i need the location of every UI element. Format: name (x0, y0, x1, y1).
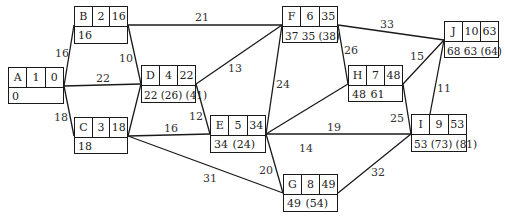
node-j-duration: 10 (463, 22, 481, 41)
node-j-times: 68 63 (64) (445, 42, 498, 59)
edge-label-a-b: 16 (55, 47, 69, 60)
edge-label-d-f: 13 (228, 62, 242, 75)
edge-label-e-g: 20 (259, 164, 273, 177)
edge-label-b-d: 10 (119, 52, 133, 65)
node-d: D422 22 (26) (41) (141, 65, 196, 103)
node-h: H748 48 61 (348, 65, 403, 102)
node-b-es: 16 (110, 7, 127, 26)
node-j-es: 63 (481, 22, 498, 41)
edge-g-i (338, 134, 411, 193)
node-d-name: D (142, 66, 160, 85)
edge-label-f-j: 33 (380, 18, 394, 31)
edge-label-a-d: 22 (96, 72, 110, 85)
edge-label-e-i: 19 (327, 121, 341, 134)
edge-c-d (128, 84, 141, 136)
node-c-es: 18 (110, 118, 127, 137)
node-a: A10 0 (8, 67, 64, 104)
edge-label-e-h: 14 (299, 142, 313, 155)
node-f: F635 37 35 (38) (282, 6, 338, 43)
node-b-name: B (75, 7, 93, 26)
node-f-times: 37 35 (38) (283, 27, 337, 44)
node-j-name: J (445, 22, 463, 41)
node-e: E534 34 (24) (210, 115, 266, 153)
node-g-es: 49 (320, 175, 337, 194)
node-a-duration: 1 (27, 68, 45, 87)
node-a-name: A (9, 68, 27, 87)
node-c-times: 18 (75, 138, 127, 155)
node-e-name: E (211, 116, 229, 135)
node-j: J1063 68 63 (64) (444, 21, 499, 58)
edge-label-d-e: 12 (189, 110, 203, 123)
node-g-duration: 8 (302, 175, 320, 194)
edge-label-i-j: 11 (437, 82, 451, 95)
node-b-times: 16 (75, 27, 127, 44)
node-g-name: G (284, 175, 302, 194)
node-d-duration: 4 (160, 66, 178, 85)
edge-label-g-i: 32 (371, 166, 385, 179)
node-c-duration: 3 (93, 118, 111, 137)
node-i-times: 53 (73) (81) (412, 135, 466, 152)
node-a-es: 0 (46, 68, 63, 87)
edge-label-f-h: 26 (344, 44, 358, 57)
node-f-es: 35 (320, 7, 337, 26)
node-c: C318 18 (74, 117, 128, 154)
node-d-es: 22 (178, 66, 195, 85)
node-e-times: 34 (24) (211, 136, 265, 153)
node-g-times: 49 (54) (284, 195, 337, 212)
edge-label-h-i: 25 (390, 112, 404, 125)
edge-label-a-c: 18 (54, 111, 68, 124)
edge-label-e-f: 24 (276, 78, 290, 91)
node-d-times: 22 (26) (41) (142, 86, 195, 103)
edge-h-i (403, 84, 411, 134)
edge-label-c-g: 31 (203, 172, 217, 185)
node-e-es: 34 (248, 116, 265, 135)
node-h-name: H (349, 66, 367, 85)
edge-label-c-e: 16 (164, 122, 178, 135)
node-f-name: F (283, 7, 301, 26)
node-b-duration: 2 (93, 7, 111, 26)
node-i-es: 53 (449, 115, 466, 134)
edge-label-b-f: 21 (195, 11, 209, 24)
node-c-name: C (75, 118, 93, 137)
node-h-times: 48 61 (349, 86, 402, 103)
node-b: B216 16 (74, 6, 128, 44)
node-h-duration: 7 (367, 66, 385, 85)
edge-label-h-j: 15 (410, 50, 424, 63)
node-i-name: I (412, 115, 430, 134)
node-g: G849 49 (54) (283, 174, 338, 212)
node-a-times: 0 (9, 88, 63, 105)
node-i: I953 53 (73) (81) (411, 114, 467, 152)
edge-d-f (196, 25, 282, 84)
edge-i-j (430, 40, 444, 114)
node-e-duration: 5 (229, 116, 247, 135)
node-h-es: 48 (385, 66, 402, 85)
node-i-duration: 9 (430, 115, 448, 134)
node-f-duration: 6 (301, 7, 319, 26)
